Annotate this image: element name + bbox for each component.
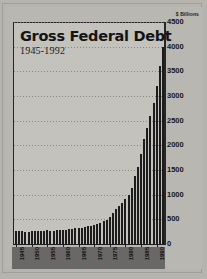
x-axis-tick-label: 1965: [81, 247, 87, 260]
chart-subtitle: 1945-1992: [20, 46, 171, 56]
bar: [87, 226, 89, 244]
bar: [93, 225, 95, 244]
x-axis-tick-label: 1945: [19, 247, 25, 260]
chart-figure: $ Billions 19451950195519601965197019751…: [6, 7, 202, 269]
y-axis-tick-label: 1000: [167, 191, 184, 199]
bar: [143, 139, 145, 244]
y-axis-tick-label: 2000: [167, 142, 184, 150]
bar: [99, 223, 101, 245]
y-axis-tick-label: 3000: [167, 92, 184, 100]
bar: [15, 231, 17, 244]
bar: [128, 195, 130, 244]
bar: [37, 231, 39, 244]
bar: [68, 229, 70, 244]
bar: [84, 227, 86, 244]
bar: [90, 226, 92, 244]
bar: [56, 230, 58, 244]
title-block: Gross Federal Debt 1945-1992: [20, 29, 171, 56]
bar: [21, 231, 23, 244]
bar: [137, 167, 139, 244]
bar: [18, 231, 20, 244]
bar: [43, 231, 45, 244]
y-axis-tick-label: 2500: [167, 117, 184, 125]
x-axis-tick-labels: 1945195019551960196519701975198019851990: [15, 247, 165, 269]
x-axis-tick-label: 1975: [112, 247, 118, 260]
bar: [71, 229, 73, 244]
bar: [159, 66, 161, 244]
x-axis-tick-label: 1955: [50, 247, 56, 260]
y-axis-tick-label: 4500: [167, 18, 184, 26]
bar: [149, 116, 151, 244]
x-axis-tick-label: 1960: [65, 247, 71, 260]
bar: [146, 128, 148, 244]
bar: [40, 231, 42, 244]
x-axis-tick-label: 1985: [144, 247, 150, 260]
bar: [34, 231, 36, 244]
y-axis-tick-label: 1500: [167, 166, 184, 174]
x-axis-tick-label: 1970: [97, 247, 103, 260]
bar: [131, 188, 133, 244]
y-axis-tick-labels: 050010001500200025003000350040004500: [167, 22, 201, 246]
bar: [103, 221, 105, 244]
y-axis-units-label: $ Billions: [176, 11, 199, 17]
bar: [115, 209, 117, 244]
bar: [62, 230, 64, 244]
x-axis-tick-label: 1950: [34, 247, 40, 260]
bar: [96, 224, 98, 244]
bar: [65, 230, 67, 244]
bar: [49, 231, 51, 244]
scanned-page: $ Billions 19451950195519601965197019751…: [0, 0, 207, 279]
bar: [112, 213, 114, 244]
bar: [156, 86, 158, 244]
bar: [153, 103, 155, 244]
x-axis-tick-label: 1980: [128, 247, 134, 260]
bar: [53, 231, 55, 244]
bar: [134, 176, 136, 244]
bar: [106, 220, 108, 244]
bar: [46, 230, 48, 244]
bar: [124, 199, 126, 244]
bar: [109, 217, 111, 244]
bar: [81, 228, 83, 244]
bar: [24, 232, 26, 244]
chart-title: Gross Federal Debt: [20, 29, 171, 44]
bar: [140, 154, 142, 244]
x-axis-tick-label: 1990: [159, 247, 165, 260]
bar: [31, 231, 33, 244]
bar: [118, 206, 120, 244]
bar: [121, 203, 123, 244]
bar: [28, 232, 30, 244]
bar: [74, 228, 76, 244]
bar: [59, 230, 61, 244]
y-axis-tick-label: 0: [167, 240, 171, 248]
bar: [78, 228, 80, 244]
y-axis-tick-label: 500: [167, 216, 180, 224]
bar: [162, 47, 164, 244]
y-axis-tick-label: 3500: [167, 68, 184, 76]
